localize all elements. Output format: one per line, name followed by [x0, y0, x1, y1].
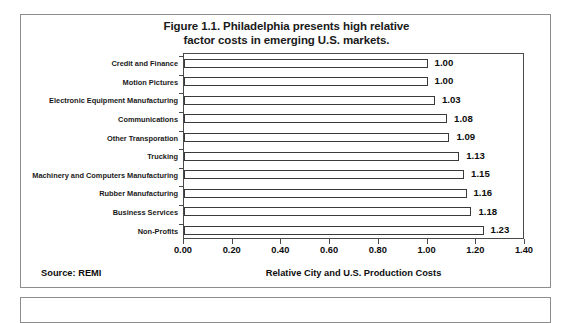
bar: [184, 133, 449, 142]
y-axis-tick: [179, 112, 184, 113]
bar: [184, 207, 471, 216]
category-label: Credit and Finance: [0, 59, 178, 68]
y-axis-tick: [179, 56, 184, 57]
bar-value-label: 1.23: [491, 224, 510, 235]
bar-value-label: 1.08: [454, 113, 473, 124]
x-axis-tick: [475, 239, 476, 244]
bar-row: Credit and Finance1.00: [184, 54, 523, 73]
x-axis-tick-label: 1.00: [407, 245, 447, 255]
bar: [184, 170, 464, 179]
bars-container: Credit and Finance1.00Motion Pictures1.0…: [184, 54, 523, 238]
bar: [184, 189, 467, 198]
source-note: Source: REMI: [41, 268, 101, 278]
x-axis-tick: [524, 239, 525, 244]
bar-value-label: 1.15: [471, 168, 490, 179]
x-axis-title: Relative City and U.S. Production Costs: [183, 268, 524, 278]
x-axis: 0.000.200.400.600.801.001.201.40: [183, 239, 524, 245]
bar-value-label: 1.00: [435, 57, 454, 68]
plot-area: Credit and Finance1.00Motion Pictures1.0…: [183, 53, 524, 239]
x-axis-tick: [427, 239, 428, 244]
y-axis-tick: [179, 168, 184, 169]
category-label: Trucking: [0, 152, 178, 161]
y-axis-tick: [179, 224, 184, 225]
bar-row: Motion Pictures1.00: [184, 73, 523, 92]
lower-empty-frame: [20, 297, 551, 323]
bar-row: Machinery and Computers Manufacturing1.1…: [184, 166, 523, 185]
y-axis-tick: [179, 93, 184, 94]
bar: [184, 59, 428, 68]
x-axis-tick-label: 0.60: [309, 245, 349, 255]
x-axis-tick-label: 0.80: [358, 245, 398, 255]
bar-value-label: 1.16: [474, 187, 493, 198]
y-axis-tick: [179, 131, 184, 132]
x-axis-tick-label: 0.40: [260, 245, 300, 255]
bar-value-label: 1.09: [456, 131, 475, 142]
category-label: Business Services: [0, 208, 178, 217]
bar: [184, 77, 428, 86]
bar: [184, 114, 447, 123]
chart-title: Figure 1.1. Philadelphia presents high r…: [21, 19, 552, 47]
bar-value-label: 1.00: [435, 75, 454, 86]
bar-value-label: 1.18: [478, 206, 497, 217]
chart-title-line-1: Figure 1.1. Philadelphia presents high r…: [21, 19, 552, 33]
category-label: Electronic Equipment Manufacturing: [0, 96, 178, 105]
y-axis-tick: [179, 186, 184, 187]
bar-row: Trucking1.13: [184, 147, 523, 166]
y-axis-tick: [179, 149, 184, 150]
category-label: Machinery and Computers Manufacturing: [0, 171, 178, 180]
x-axis-tick: [378, 239, 379, 244]
category-label: Communications: [0, 115, 178, 124]
y-axis-tick: [179, 205, 184, 206]
bar-row: Communications1.08: [184, 110, 523, 129]
chart-title-line-2: factor costs in emerging U.S. markets.: [21, 33, 552, 47]
category-label: Rubber Manufacturing: [0, 189, 178, 198]
x-axis-tick-label: 1.20: [455, 245, 495, 255]
bar: [184, 152, 459, 161]
y-axis-tick: [179, 75, 184, 76]
x-axis-tick-label: 1.40: [504, 245, 544, 255]
x-axis-tick: [329, 239, 330, 244]
x-axis-tick: [183, 239, 184, 244]
bar-row: Rubber Manufacturing1.16: [184, 184, 523, 203]
bar-row: Business Services1.18: [184, 203, 523, 222]
figure-frame: Figure 1.1. Philadelphia presents high r…: [20, 14, 551, 288]
x-axis-tick-label: 0.20: [212, 245, 252, 255]
bar-value-label: 1.03: [442, 94, 461, 105]
bar-row: Electronic Equipment Manufacturing1.03: [184, 91, 523, 110]
bar: [184, 226, 484, 235]
bar-row: Other Transporation1.09: [184, 128, 523, 147]
x-axis-tick: [232, 239, 233, 244]
x-axis-tick: [280, 239, 281, 244]
bar: [184, 96, 435, 105]
bar-row: Non-Profits1.23: [184, 221, 523, 240]
category-label: Other Transporation: [0, 134, 178, 143]
category-label: Motion Pictures: [0, 78, 178, 87]
category-label: Non-Profits: [0, 227, 178, 236]
bar-value-label: 1.13: [466, 150, 485, 161]
x-axis-tick-label: 0.00: [163, 245, 203, 255]
